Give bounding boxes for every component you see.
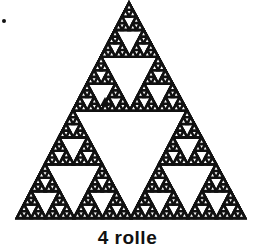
figure-caption: 4 rolle	[0, 227, 255, 248]
triangle	[126, 3, 133, 10]
bullet-dot	[2, 19, 6, 23]
